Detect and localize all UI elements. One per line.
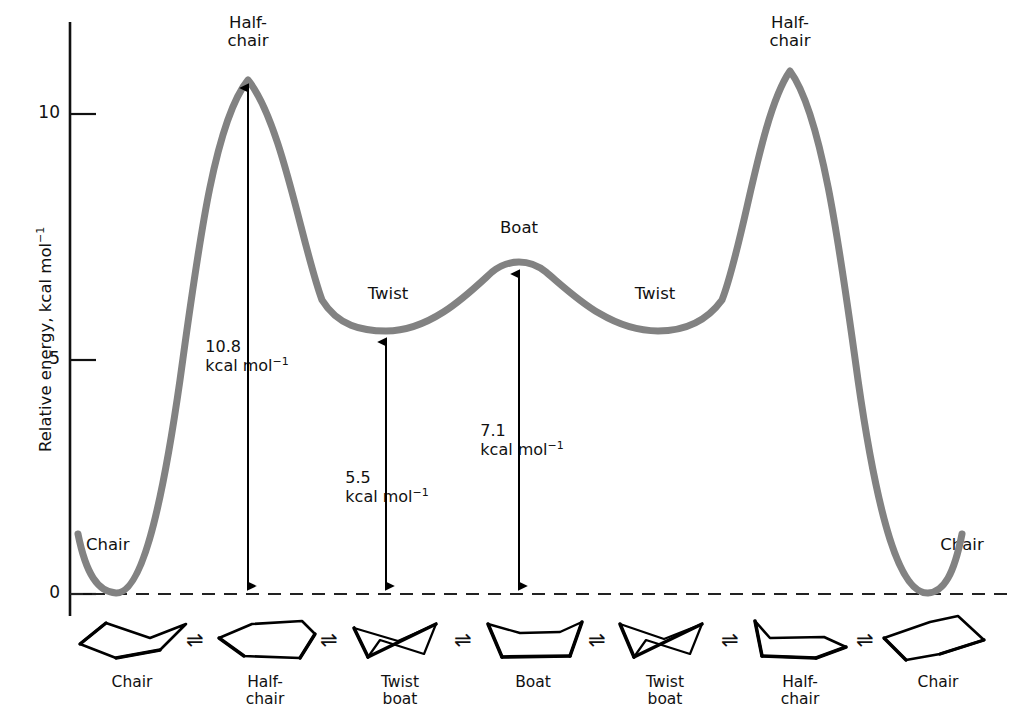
structure-half-chair-2 <box>755 621 846 658</box>
structure-chair-1 <box>80 623 186 658</box>
structure-twist-boat-1 <box>354 624 436 657</box>
structure-boat-1 <box>488 622 582 657</box>
structure-half-chair-1 <box>219 621 315 658</box>
energy-diagram-figure: Relative energy, kcal mol−1 10 5 0 Chair… <box>0 0 1027 722</box>
structure-twist-boat-2 <box>620 624 702 657</box>
structure-chair-2 <box>884 616 984 660</box>
diagram-canvas <box>0 0 1027 722</box>
y-axis <box>70 22 96 616</box>
